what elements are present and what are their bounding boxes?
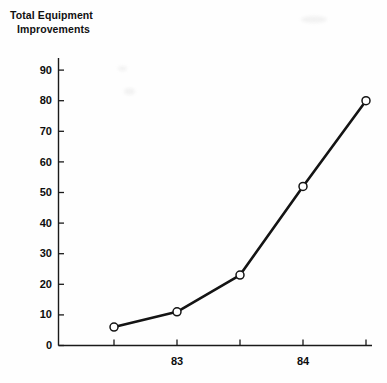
x-tick-marks <box>114 340 366 346</box>
data-point-marker <box>362 97 370 105</box>
y-tick-label-20: 20 <box>18 278 52 290</box>
x-tick-label-84: 84 <box>283 355 323 367</box>
series-line-total-equipment-improvements <box>114 101 366 327</box>
data-point-markers <box>110 97 370 331</box>
y-tick-label-50: 50 <box>18 186 52 198</box>
data-point-marker <box>236 271 244 279</box>
data-point-marker <box>299 182 307 190</box>
y-tick-label-70: 70 <box>18 125 52 137</box>
y-tick-label-80: 80 <box>18 94 52 106</box>
data-point-marker <box>173 308 181 316</box>
chart-figure: Total Equipment Improvements <box>0 0 387 383</box>
y-tick-label-0: 0 <box>18 339 52 351</box>
y-tick-label-60: 60 <box>18 156 52 168</box>
y-tick-label-30: 30 <box>18 247 52 259</box>
y-tick-label-10: 10 <box>18 308 52 320</box>
x-tick-label-83: 83 <box>157 355 197 367</box>
y-tick-label-90: 90 <box>18 64 52 76</box>
data-point-marker <box>110 323 118 331</box>
plot-area <box>0 0 387 383</box>
y-tick-marks <box>59 70 65 345</box>
y-tick-label-40: 40 <box>18 217 52 229</box>
